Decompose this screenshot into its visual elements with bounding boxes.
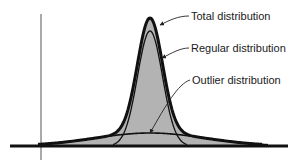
outlier-distribution-label: Outlier distribution <box>192 74 281 86</box>
regular-distribution-label: Regular distribution <box>191 42 286 54</box>
total-leader-arrow <box>160 16 189 25</box>
distribution-diagram: Total distribution Regular distribution … <box>0 0 297 165</box>
regular-leader-arrow <box>162 48 189 58</box>
total-distribution-label: Total distribution <box>191 10 271 22</box>
